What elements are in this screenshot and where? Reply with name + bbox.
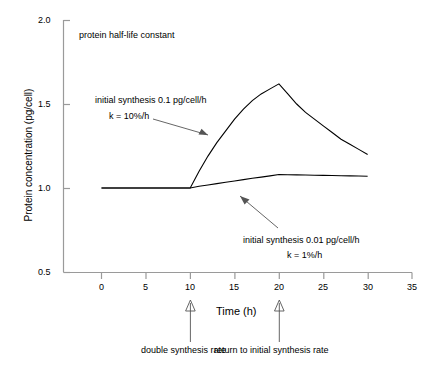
y-tick-label-1-5: 1.5 [38, 99, 51, 109]
annotation-upper-synthesis: initial synthesis 0.1 pg/cell/h [95, 95, 207, 105]
x-tick-label-5: 5 [143, 282, 148, 292]
x-tick-label-35: 35 [407, 282, 417, 292]
x-axis-label: Time (h) [216, 305, 257, 318]
y-axis-label-wrapper: Protein concentration (pg/cell) [18, 40, 36, 270]
y-tick-label-1-0: 1.0 [38, 183, 51, 193]
x-tick-label-25: 25 [318, 282, 328, 292]
upper-annotation-arrow-head [199, 129, 209, 135]
annotation-lower-k: k = 1%/h [287, 250, 322, 260]
annotation-upper-k: k = 10%/h [109, 111, 149, 121]
y-tick-label-0-5: 0.5 [38, 267, 51, 277]
x-tick-label-30: 30 [363, 282, 373, 292]
annotation-half-life: protein half-life constant [79, 30, 175, 40]
chart-canvas [0, 0, 433, 377]
y-tick-label-2-0: 2.0 [38, 15, 51, 25]
x-tick-label-10: 10 [185, 282, 195, 292]
y-axis-label: Protein concentration (pg/cell) [23, 89, 35, 222]
x-tick-label-20: 20 [274, 282, 284, 292]
chart-figure: 2.0 1.5 1.0 0.5 0 5 10 15 20 25 30 35 Pr… [0, 0, 433, 377]
annotation-return-initial-rate: return to initial synthesis rate [214, 345, 329, 355]
series-line-low-k [102, 175, 368, 188]
x-tick-label-0: 0 [99, 282, 104, 292]
annotation-lower-synthesis: initial synthesis 0.01 pg/cell/h [243, 235, 360, 245]
x-tick-label-15: 15 [229, 282, 239, 292]
